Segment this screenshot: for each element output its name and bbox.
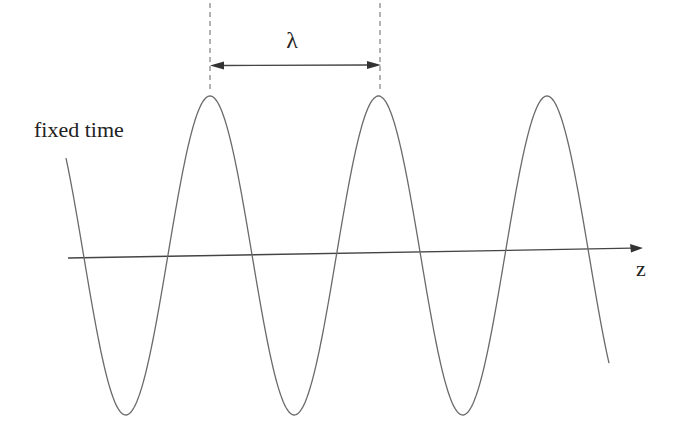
z-axis-label: z: [636, 256, 646, 281]
z-axis-arrowhead-icon: [630, 244, 643, 253]
z-axis-line: [68, 248, 632, 258]
sine-wave-curve: [66, 96, 609, 415]
arrowhead-left-icon: [210, 62, 224, 70]
fixed-time-label: fixed time: [34, 117, 124, 142]
wave-diagram: λ fixed time z: [0, 0, 677, 441]
wavelength-label: λ: [286, 27, 298, 53]
wavelength-dimension-line: [222, 65, 368, 66]
arrowhead-right-icon: [367, 61, 381, 69]
